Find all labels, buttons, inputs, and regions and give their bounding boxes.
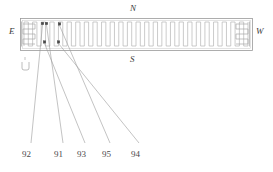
marker-93-bottom bbox=[43, 41, 46, 44]
technical-drawing bbox=[0, 0, 273, 172]
orientation-label-east: E bbox=[9, 27, 15, 36]
orientation-label-west: W bbox=[256, 27, 264, 36]
reference-number-94: 94 bbox=[131, 150, 140, 159]
reference-number-95: 95 bbox=[102, 150, 111, 159]
orientation-label-south: S bbox=[130, 55, 135, 64]
marker-95-top bbox=[58, 23, 61, 26]
marker-92-top bbox=[41, 22, 44, 25]
marker-94-bottom bbox=[57, 41, 60, 44]
leader-line-94 bbox=[59, 44, 140, 144]
leader-line-93 bbox=[45, 44, 86, 144]
orientation-label-north: N bbox=[130, 4, 136, 13]
reference-number-91: 91 bbox=[54, 150, 63, 159]
reference-number-92: 92 bbox=[22, 150, 31, 159]
u-shaped-terminal bbox=[22, 62, 29, 70]
figure-canvas: N S E W 92 91 93 95 94 bbox=[0, 0, 273, 172]
marker-91-top bbox=[45, 22, 48, 25]
reference-number-93: 93 bbox=[77, 150, 86, 159]
